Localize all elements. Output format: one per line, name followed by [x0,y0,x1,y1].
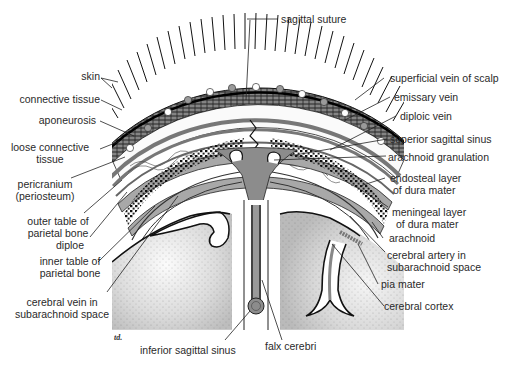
label-aponeurosis: aponeurosis [39,114,96,126]
label-superior-sagittal-sinus: superior sagittal sinus [390,133,492,145]
inferior-sagittal-sinus [248,298,264,314]
label-cerebral-cortex: cerebral cortex [384,300,453,312]
label-pia-mater: pia mater [381,278,425,290]
label-outer-table: outer table of parietal bone [18,215,98,239]
label-diploe: diploe [56,239,84,251]
label-line-2: subarachnoid space [387,261,481,273]
label-arachnoid: arachnoid [389,232,435,244]
artist-signature: td. [114,333,122,342]
label-line-2: tissue [0,153,100,165]
label-meningeal-layer: meningeal layer of dura mater [392,206,466,230]
label-line-1: cerebral artery in [387,249,481,261]
label-diploic-vein: diploic vein [400,110,452,122]
label-line-1: inner table of [38,255,102,267]
label-loose-connective-tissue: loose connective tissue [0,141,100,165]
label-line-1: pericranium [10,178,80,190]
label-sagittal-suture: sagittal suture [281,13,346,25]
label-inner-table: inner table of parietal bone [38,255,102,279]
label-inferior-sagittal-sinus: inferior sagittal sinus [140,344,236,356]
label-line-1: outer table of [18,215,98,227]
label-line-2: parietal bone [18,227,98,239]
label-skin: skin [81,70,100,82]
section-layers [102,13,412,330]
falx-cerebri [253,205,259,300]
label-emissary-vein: emissary vein [394,91,458,103]
label-superficial-vein: superficial vein of scalp [390,72,499,84]
label-line-2: parietal bone [38,267,102,279]
label-line-1: loose connective [0,141,100,153]
label-line-1: meningeal layer [392,206,466,218]
label-pericranium: pericranium (periosteum) [10,178,80,202]
label-line-2: subarachnoid space [12,308,112,320]
superior-sagittal-sinus [215,148,297,206]
label-falx-cerebri: falx cerebri [265,340,316,352]
label-line-1: cerebral vein in [12,296,112,308]
label-line-2: of dura mater [392,218,466,230]
label-line-1: endosteal layer [390,172,461,184]
label-endosteal-layer: endosteal layer of dura mater [390,172,461,196]
label-connective-tissue: connective tissue [19,93,100,105]
label-cerebral-vein: cerebral vein in subarachnoid space [12,296,112,320]
label-arachnoid-granulation: arachnoid granulation [388,151,489,163]
label-line-2: of dura mater [390,184,461,196]
label-line-2: (periosteum) [10,190,80,202]
label-cerebral-artery: cerebral artery in subarachnoid space [387,249,481,273]
